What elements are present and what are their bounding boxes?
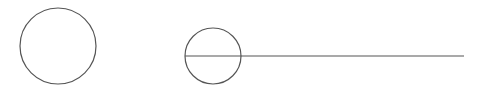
left-circle <box>20 8 96 84</box>
diagram-canvas <box>0 0 482 91</box>
